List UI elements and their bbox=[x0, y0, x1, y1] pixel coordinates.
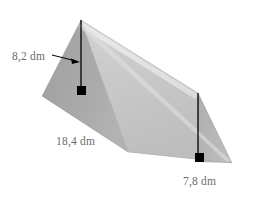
dimension-label-length: 18,4 dm bbox=[56, 135, 95, 147]
geometry-figure-container: 8,2 dm 18,4 dm 7,8 dm bbox=[0, 0, 254, 197]
dimension-label-height-left: 8,2 dm bbox=[12, 50, 45, 62]
right-angle-marker-right bbox=[195, 153, 204, 162]
right-angle-marker-left bbox=[77, 86, 86, 95]
triangular-prism-drawing bbox=[0, 0, 254, 197]
dimension-label-height-right: 7,8 dm bbox=[183, 175, 216, 187]
